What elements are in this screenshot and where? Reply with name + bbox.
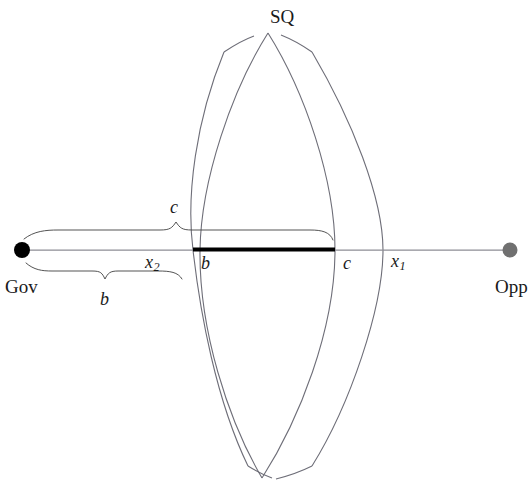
opp-endpoint-dot bbox=[503, 243, 518, 258]
gov-label: Gov bbox=[5, 277, 38, 296]
c-on-line-label: c bbox=[343, 254, 351, 272]
x2-subscript: 2 bbox=[153, 260, 160, 274]
upper-brace bbox=[24, 222, 333, 240]
x2-label: x2 bbox=[145, 253, 160, 274]
diagram-graphics bbox=[0, 0, 532, 499]
x1-label: x1 bbox=[391, 252, 406, 273]
inner-lens-left-arc bbox=[200, 33, 268, 478]
x1-base: x bbox=[391, 251, 399, 271]
c-above-line-label: c bbox=[170, 198, 178, 216]
x2-base: x bbox=[145, 252, 153, 272]
b-on-line-label: b bbox=[201, 254, 210, 272]
figure-canvas: SQ Gov Opp c x2 b c x1 b bbox=[0, 0, 532, 499]
opp-label: Opp bbox=[495, 277, 528, 296]
outer-lens-right-arc-top-tail bbox=[281, 35, 312, 52]
inner-lens-right-arc bbox=[262, 33, 335, 478]
outer-lens-right-arc-bottom-tail bbox=[276, 466, 312, 479]
outer-lens-left-arc bbox=[191, 52, 248, 466]
x1-subscript: 1 bbox=[399, 259, 406, 273]
cropped-bottom-caption bbox=[0, 487, 532, 499]
b-under-brace-label: b bbox=[100, 290, 109, 308]
outer-lens-left-arc-top-tail bbox=[224, 36, 254, 52]
gov-endpoint-dot bbox=[14, 242, 30, 258]
status-quo-label: SQ bbox=[270, 7, 294, 26]
